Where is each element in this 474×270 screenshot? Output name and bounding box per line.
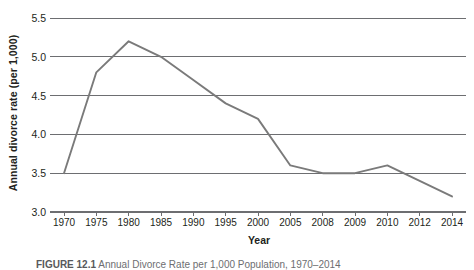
y-tick-label: 4.5 bbox=[24, 90, 46, 101]
gridlines bbox=[50, 18, 466, 212]
x-tick-label: 2010 bbox=[376, 218, 398, 228]
x-tick-label: 2012 bbox=[409, 218, 431, 228]
x-axis-title: Year bbox=[50, 234, 468, 246]
y-tick-label: 3.0 bbox=[24, 207, 46, 218]
x-tick-label: 2008 bbox=[312, 218, 334, 228]
plot-area bbox=[50, 0, 468, 225]
y-tick-label: 3.5 bbox=[24, 168, 46, 179]
x-tick-label: 2014 bbox=[441, 218, 463, 228]
y-tick-label: 5.0 bbox=[24, 52, 46, 63]
x-tick-label: 1990 bbox=[182, 218, 204, 228]
figure-caption-label: FIGURE 12.1 bbox=[36, 259, 96, 270]
chart-canvas bbox=[50, 0, 468, 225]
y-tick-label: 5.5 bbox=[24, 13, 46, 24]
y-axis-title-text: Annual divorce rate (per 1,000) bbox=[7, 34, 19, 191]
x-tick-label: 1995 bbox=[215, 218, 237, 228]
x-tick-label: 2000 bbox=[247, 218, 269, 228]
figure-caption: FIGURE 12.1 Annual Divorce Rate per 1,00… bbox=[36, 259, 466, 270]
x-tick-label: 1970 bbox=[53, 218, 75, 228]
y-tick-label: 4.0 bbox=[24, 129, 46, 140]
figure-caption-text: Annual Divorce Rate per 1,000 Population… bbox=[98, 259, 340, 270]
x-tick-label: 2009 bbox=[344, 218, 366, 228]
x-axis-tick-labels: 1970197519801985199019952000200520082009… bbox=[50, 218, 468, 234]
x-tick-label: 1980 bbox=[118, 218, 140, 228]
y-axis-tick-labels: 3.03.54.04.55.05.5 bbox=[22, 0, 46, 225]
x-tick-label: 2005 bbox=[279, 218, 301, 228]
x-tick-label: 1975 bbox=[85, 218, 107, 228]
x-tick-label: 1985 bbox=[150, 218, 172, 228]
